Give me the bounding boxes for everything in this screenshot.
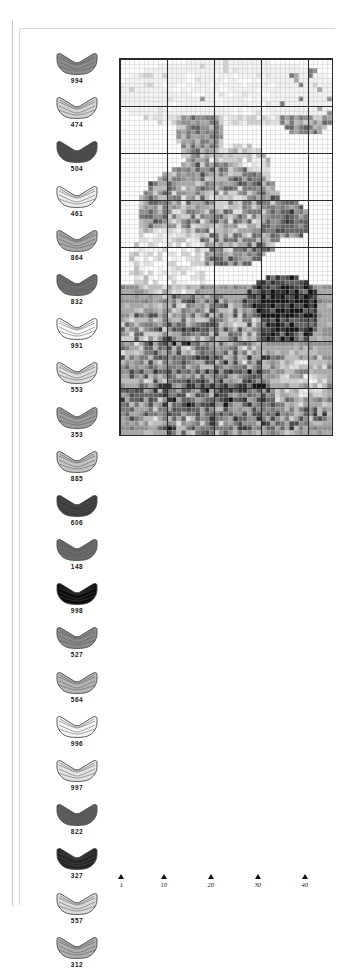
legend-item: 997 [44,759,110,803]
legend-item: 327 [44,847,110,891]
legend-item: 557 [44,892,110,936]
legend-item: 148 [44,538,110,582]
thread-skein-icon [54,803,100,827]
thread-skein-icon [54,140,100,164]
thread-skein-icon [54,52,100,76]
thread-skein-icon [54,582,100,606]
thread-color-legend: 9944745044618648329915533538856061489985… [44,52,110,971]
legend-item-code: 994 [44,77,110,84]
legend-item: 864 [44,229,110,273]
thread-skein-icon [54,96,100,120]
legend-item: 998 [44,582,110,626]
legend-item: 527 [44,626,110,670]
legend-item-code: 527 [44,651,110,658]
axis-tick: 10 [157,874,171,888]
legend-item: 461 [44,185,110,229]
legend-item: 832 [44,273,110,317]
thread-skein-icon [54,450,100,474]
thread-skein-icon [54,671,100,695]
thread-skein-icon [54,538,100,562]
thread-skein-icon [54,317,100,341]
legend-item-code: 606 [44,519,110,526]
thread-skein-icon [54,273,100,297]
legend-item-code: 564 [44,696,110,703]
axis-tick-marker-icon [302,874,308,879]
legend-item-code: 504 [44,165,110,172]
axis-tick: 40 [298,874,312,888]
legend-item-code: 327 [44,872,110,879]
axis-tick-marker-icon [161,874,167,879]
legend-item: 885 [44,450,110,494]
thread-skein-icon [54,494,100,518]
thread-skein-icon [54,892,100,916]
legend-item: 474 [44,96,110,140]
legend-item-code: 461 [44,210,110,217]
thread-skein-icon [54,936,100,960]
legend-item: 996 [44,715,110,759]
thread-skein-icon [54,715,100,739]
axis-tick-label: 10 [157,881,171,888]
legend-item-code: 822 [44,828,110,835]
legend-item: 991 [44,317,110,361]
legend-item-code: 997 [44,784,110,791]
axis-tick-marker-icon [255,874,261,879]
thread-skein-icon [54,626,100,650]
legend-item-code: 991 [44,342,110,349]
legend-item-code: 312 [44,961,110,968]
legend-item: 504 [44,140,110,184]
legend-item-code: 832 [44,298,110,305]
thread-skein-icon [54,185,100,209]
axis-tick-label: 1 [114,881,128,888]
thread-skein-icon [54,229,100,253]
legend-item: 994 [44,52,110,96]
axis-tick-marker-icon [208,874,214,879]
legend-item-code: 557 [44,917,110,924]
thread-skein-icon [54,361,100,385]
axis-tick-label: 30 [251,881,265,888]
legend-item: 822 [44,803,110,847]
legend-item-code: 996 [44,740,110,747]
axis-tick: 30 [251,874,265,888]
column-number-axis: 110203040 [119,874,331,904]
axis-tick: 1 [114,874,128,888]
legend-item-code: 885 [44,475,110,482]
legend-item-code: 353 [44,431,110,438]
chart-grid-canvas [119,58,333,436]
thread-skein-icon [54,847,100,871]
legend-item-code: 998 [44,607,110,614]
axis-tick: 20 [204,874,218,888]
legend-item: 553 [44,361,110,405]
legend-item-code: 148 [44,563,110,570]
legend-item: 564 [44,671,110,715]
legend-item-code: 474 [44,121,110,128]
thread-skein-icon [54,406,100,430]
legend-item: 606 [44,494,110,538]
legend-item: 353 [44,406,110,450]
legend-item-code: 864 [44,254,110,261]
legend-item: 312 [44,936,110,971]
cross-stitch-chart [119,58,333,436]
axis-tick-marker-icon [118,874,124,879]
thread-skein-icon [54,759,100,783]
legend-item-code: 553 [44,386,110,393]
axis-tick-label: 40 [298,881,312,888]
axis-tick-label: 20 [204,881,218,888]
